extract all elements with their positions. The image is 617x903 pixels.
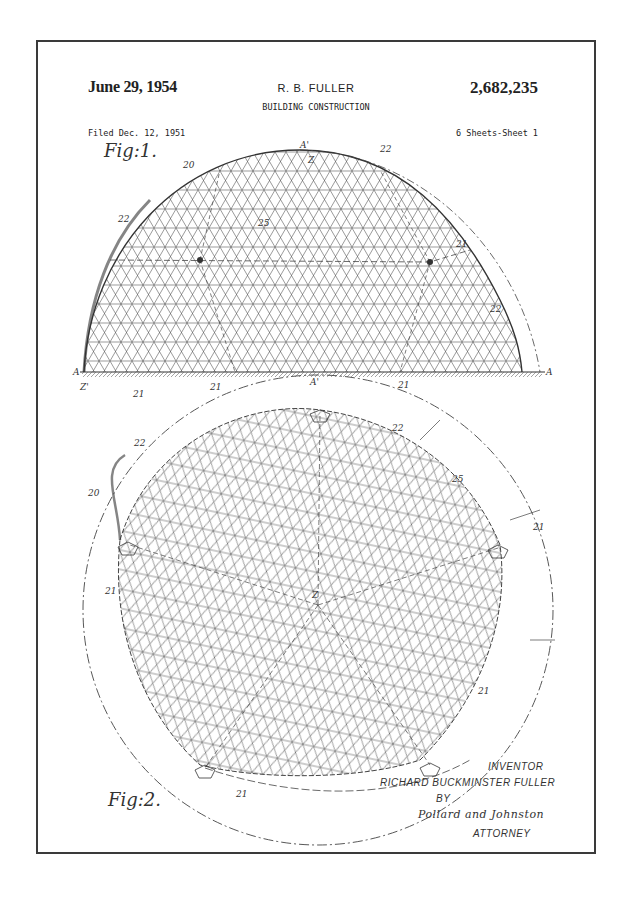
svg-text:22: 22 — [133, 438, 146, 448]
figure-2-label: Fig:2. — [108, 789, 161, 810]
svg-text:21: 21 — [235, 789, 247, 799]
figure-1-label: Fig:1. — [104, 140, 157, 161]
inventor-caption: INVENTOR — [488, 761, 544, 772]
svg-text:21: 21 — [397, 380, 409, 390]
svg-text:21: 21 — [532, 522, 544, 532]
attorney-caption: ATTORNEY — [473, 828, 531, 839]
svg-text:22: 22 — [489, 304, 502, 314]
svg-text:A: A — [72, 367, 80, 377]
svg-text:21: 21 — [477, 686, 489, 696]
svg-text:25: 25 — [451, 474, 464, 484]
svg-text:A': A' — [299, 140, 309, 150]
svg-text:21: 21 — [209, 382, 221, 392]
svg-text:22: 22 — [391, 423, 404, 433]
svg-text:22: 22 — [379, 144, 392, 154]
inventor-full-name: RICHARD BUCKMINSTER FULLER — [380, 777, 555, 788]
attorney-signature: Pollard and Johnston — [418, 808, 544, 821]
figure-2-dome-plan — [83, 375, 555, 845]
svg-text:Z': Z' — [79, 382, 89, 392]
svg-text:21: 21 — [455, 239, 467, 249]
svg-text:A': A' — [309, 377, 319, 387]
svg-text:Z: Z — [311, 590, 319, 600]
svg-text:25: 25 — [257, 218, 270, 228]
svg-text:20: 20 — [182, 160, 195, 170]
by-caption: BY — [436, 793, 450, 804]
svg-text:A: A — [545, 367, 553, 377]
svg-text:21: 21 — [132, 389, 144, 399]
svg-text:22: 22 — [117, 214, 130, 224]
svg-text:Z: Z — [307, 155, 315, 165]
svg-text:20: 20 — [87, 488, 100, 498]
svg-text:21: 21 — [104, 586, 116, 596]
figure-1-dome-elevation — [60, 140, 545, 380]
